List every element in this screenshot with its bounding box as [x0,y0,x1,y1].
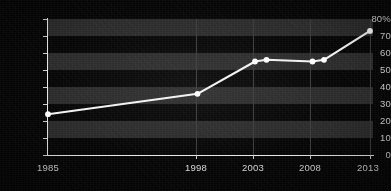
line-chart: 80% 70 60 50 40 30 20 10 0 1985 1998 200… [0,0,391,191]
data-point [321,57,327,63]
data-point [367,28,373,34]
data-point [310,59,316,65]
data-point [45,111,51,117]
data-point [252,59,258,65]
data-point [195,91,201,97]
series-line [48,31,370,114]
data-series-layer [0,0,391,191]
data-point [264,57,270,63]
series-markers [45,28,373,117]
